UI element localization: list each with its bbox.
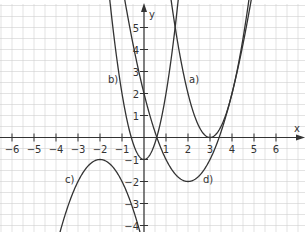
x-tick-label: 6 (273, 144, 279, 155)
curve-label-d: d) (203, 174, 213, 185)
x-axis-label: x (294, 123, 300, 134)
x-tick-label: 3 (207, 144, 213, 155)
y-tick-label: 5 (133, 23, 139, 34)
x-tick-label: 5 (251, 144, 257, 155)
x-tick-label: 2 (185, 144, 191, 155)
x-tick-label: −2 (93, 144, 108, 155)
y-tick-label: 2 (133, 89, 139, 100)
curve-label-c: c) (65, 174, 74, 185)
function-graph: −6−5−4−3−2−1123456−4−3−2−112345 x y a) b… (0, 0, 305, 232)
curve-label-a: a) (189, 74, 199, 85)
x-tick-label: 1 (163, 144, 169, 155)
y-tick-label: 1 (133, 111, 139, 122)
x-tick-label: 4 (229, 144, 235, 155)
x-axis-arrow-icon (296, 135, 305, 141)
y-tick-label: −1 (124, 155, 139, 166)
y-axis-label: y (149, 9, 155, 20)
grid (0, 4, 305, 232)
x-tick-label: −1 (115, 144, 130, 155)
y-tick-label: −2 (124, 177, 139, 188)
x-tick-label: −6 (5, 144, 20, 155)
x-tick-label: −4 (49, 144, 64, 155)
y-axis-arrow-icon (141, 3, 147, 12)
axes (0, 3, 305, 232)
x-tick-label: −3 (71, 144, 86, 155)
tick-marks: −6−5−4−3−2−1123456−4−3−2−112345 (5, 23, 280, 232)
curves (60, 0, 252, 232)
x-tick-label: −5 (27, 144, 42, 155)
curve-label-b: b) (108, 74, 118, 85)
